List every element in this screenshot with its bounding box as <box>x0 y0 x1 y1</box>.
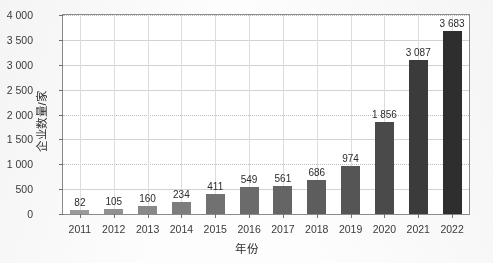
y-axis-tick-mark <box>59 214 63 215</box>
bar-value-label: 3 087 <box>406 47 431 58</box>
bar-2012: 105 <box>104 209 123 214</box>
x-axis-title: 年份 <box>0 240 493 256</box>
x-axis-tick-mark <box>80 214 81 218</box>
bar-2014: 234 <box>172 202 191 214</box>
x-axis-tick-mark <box>317 214 318 218</box>
x-axis-tick-label: 2022 <box>429 223 475 235</box>
bar-value-label: 561 <box>275 173 292 184</box>
x-gridline <box>181 15 182 214</box>
y-axis-tick-mark <box>59 90 63 91</box>
y-axis-tick-mark <box>59 189 63 190</box>
y-axis-tick-mark <box>59 65 63 66</box>
y-axis-tick-label: 3 500 <box>0 34 33 46</box>
x-gridline <box>148 15 149 214</box>
bar-chart-figure: 企业数量/家 05001 0001 5002 0002 5003 0003 50… <box>0 0 493 263</box>
bar-2015: 411 <box>206 194 225 214</box>
y-axis-tick-label: 3 000 <box>0 59 33 71</box>
bar-value-label: 686 <box>308 167 325 178</box>
x-gridline <box>114 15 115 214</box>
y-axis-tick-label: 2 000 <box>0 109 33 121</box>
y-axis-tick-mark <box>59 15 63 16</box>
y-axis-tick-mark <box>59 115 63 116</box>
y-axis-tick-label: 4 000 <box>0 9 33 21</box>
bar-2011: 82 <box>70 210 89 214</box>
x-axis-tick-mark <box>384 214 385 218</box>
x-axis-tick-mark <box>181 214 182 218</box>
bar-value-label: 1 856 <box>372 109 397 120</box>
plot-area: 05001 0001 5002 0002 5003 0003 5004 0002… <box>62 14 470 215</box>
bar-value-label: 411 <box>207 181 223 192</box>
y-axis-tick-label: 0 <box>0 208 33 220</box>
bar-value-label: 549 <box>241 174 258 185</box>
bar-value-label: 105 <box>105 196 122 207</box>
bar-value-label: 974 <box>342 153 359 164</box>
bar-2017: 561 <box>273 186 292 214</box>
bar-2019: 974 <box>341 166 360 214</box>
y-axis-title: 企业数量/家 <box>33 36 49 206</box>
y-axis-tick-mark <box>59 40 63 41</box>
bar-2016: 549 <box>240 187 259 214</box>
bar-2020: 1 856 <box>375 122 394 214</box>
x-axis-tick-mark <box>215 214 216 218</box>
bar-value-label: 160 <box>139 193 156 204</box>
y-axis-tick-mark <box>59 164 63 165</box>
x-axis-tick-mark <box>452 214 453 218</box>
bar-value-label: 3 683 <box>440 18 465 29</box>
x-axis-tick-mark <box>418 214 419 218</box>
y-gridline <box>63 15 469 16</box>
x-axis-tick-mark <box>283 214 284 218</box>
x-gridline <box>80 15 81 214</box>
x-axis-tick-mark <box>114 214 115 218</box>
bar-2013: 160 <box>138 206 157 214</box>
bar-value-label: 82 <box>74 197 85 208</box>
y-axis-tick-label: 500 <box>0 183 33 195</box>
x-gridline <box>283 15 284 214</box>
y-axis-tick-label: 1 500 <box>0 133 33 145</box>
y-axis-tick-mark <box>59 139 63 140</box>
x-axis-tick-mark <box>249 214 250 218</box>
bar-2021: 3 087 <box>409 60 428 214</box>
bar-2022: 3 683 <box>443 31 462 214</box>
y-gridline <box>63 40 469 41</box>
y-axis-tick-label: 1 000 <box>0 158 33 170</box>
x-axis-tick-mark <box>351 214 352 218</box>
bar-value-label: 234 <box>173 189 190 200</box>
bar-2018: 686 <box>307 180 326 214</box>
y-axis-tick-label: 2 500 <box>0 84 33 96</box>
x-axis-tick-mark <box>148 214 149 218</box>
